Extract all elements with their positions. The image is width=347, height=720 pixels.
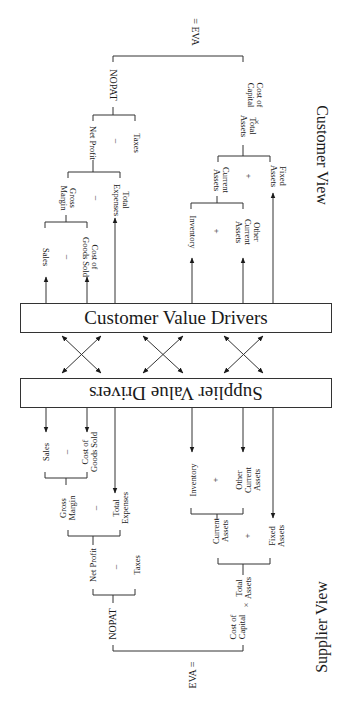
customer-value-drivers-label: Customer Value Drivers (84, 307, 267, 329)
supplier-value-drivers-label: Supplier Value Drivers (89, 382, 263, 404)
customer-plus-assets: + (243, 173, 252, 178)
customer-plus-current: + (211, 228, 220, 233)
customer-total-expenses-label: Total Expenses (112, 184, 130, 216)
supplier-cost-of-capital-label: Cost of Capital (229, 615, 247, 640)
customer-total-assets-label: Total Assets (239, 115, 257, 137)
supplier-plus-assets: + (243, 533, 252, 538)
supplier-value-drivers-box: Supplier Value Drivers (20, 378, 332, 408)
customer-gross-margin-label: Gross Margin (59, 186, 77, 211)
customer-taxes-label: Taxes (133, 133, 142, 153)
customer-cost-of-capital-label: Cost of Capital (246, 83, 264, 108)
customer-fixed-assets-label: Fixed Assets (269, 165, 287, 187)
eva-bracket-customer (113, 56, 243, 62)
supplier-view-title: Supplier View (314, 581, 331, 673)
supplier-plus-current: + (211, 477, 220, 482)
supplier-minus-nopat: – (111, 565, 120, 570)
diagram-lines (0, 0, 347, 720)
supplier-minus-gross: – (62, 450, 71, 455)
supplier-inventory-label: Inventory (189, 463, 198, 496)
supplier-total-expenses-label: Total Expenses (112, 492, 130, 524)
supplier-minus-netprofit: – (91, 506, 100, 511)
customer-other-current-assets-label: Other Current Assets (235, 219, 262, 245)
supplier-cogs-label: Cost of Goods Sold (81, 432, 99, 472)
customer-view-title: Customer View (314, 105, 331, 205)
eva-bracket-supplier (113, 645, 243, 651)
supplier-total-assets-label: Total Assets (235, 577, 253, 599)
supplier-nopat-label: NOPAT (108, 608, 119, 639)
supplier-fixed-assets-label: Fixed Assets (268, 525, 286, 547)
customer-cogs-label: Cost of Goods Sold (81, 237, 99, 277)
customer-minus-gross: – (62, 255, 71, 260)
supplier-sales-label: Sales (42, 443, 51, 461)
customer-inventory-label: Inventory (189, 215, 198, 248)
supplier-current-assets-label: Current Assets (212, 518, 230, 544)
supplier-eva-label: EVA = (188, 662, 199, 689)
customer-nopat-label: NOPAT (108, 69, 119, 100)
supplier-net-profit-label: Net Profit (89, 548, 98, 582)
customer-minus-nopat: – (111, 139, 120, 144)
supplier-taxes-label: Taxes (133, 555, 142, 575)
customer-current-assets-label: Current Assets (212, 167, 230, 193)
supplier-gross-margin-label: Gross Margin (59, 496, 77, 521)
supplier-times: × (242, 602, 251, 607)
customer-sales-label: Sales (42, 248, 51, 266)
customer-minus-netprofit: – (91, 196, 100, 201)
customer-value-drivers-box: Customer Value Drivers (20, 303, 332, 333)
supplier-other-current-assets-label: Other Current Assets (235, 467, 262, 493)
customer-net-profit-label: Net Profit (89, 126, 98, 160)
customer-eva-label: = EVA (190, 18, 201, 45)
